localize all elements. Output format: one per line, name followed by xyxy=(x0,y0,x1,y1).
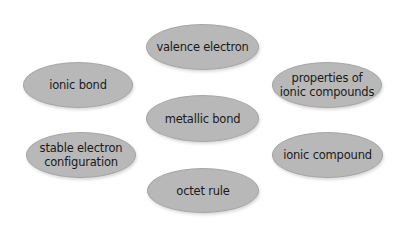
node-label: stable electron configuration xyxy=(40,141,123,169)
node-label: properties of ionic compounds xyxy=(280,71,374,99)
node-octet-rule: octet rule xyxy=(147,168,259,213)
node-ionic-compound: ionic compound xyxy=(272,132,383,178)
node-metallic-bond: metallic bond xyxy=(146,95,259,142)
node-ionic-bond: ionic bond xyxy=(23,62,133,108)
node-label: valence electron xyxy=(156,40,248,54)
node-valence-electron: valence electron xyxy=(146,24,259,70)
node-properties-of-ionic-compounds: properties of ionic compounds xyxy=(272,62,382,108)
node-label: octet rule xyxy=(176,184,229,198)
node-stable-electron-configuration: stable electron configuration xyxy=(26,132,136,178)
node-label: ionic bond xyxy=(49,78,107,92)
node-label: metallic bond xyxy=(165,112,241,126)
node-label: ionic compound xyxy=(283,148,372,162)
